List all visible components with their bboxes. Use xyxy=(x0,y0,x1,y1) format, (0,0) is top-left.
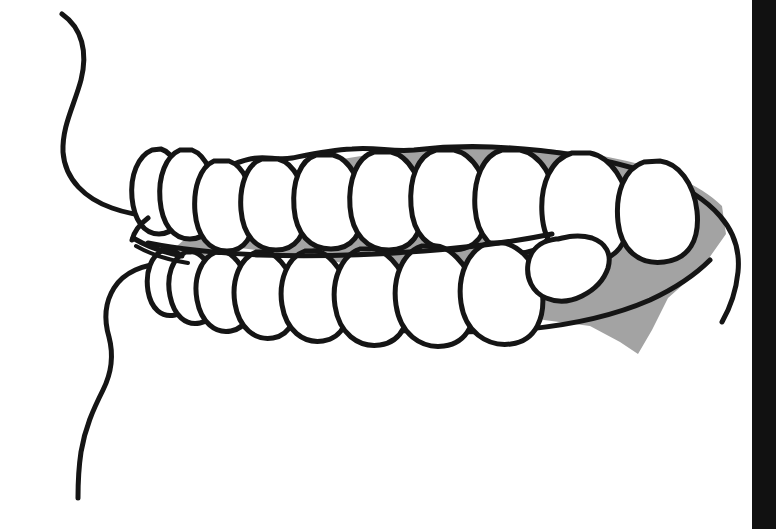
figure-canvas: Lateral view of dental arches in occlusi… xyxy=(0,0,776,529)
upper-terminal-molar xyxy=(617,161,697,262)
right-edge-dark-band xyxy=(752,0,776,529)
dental-lateral-illustration: Lateral view of dental arches in occlusi… xyxy=(0,0,776,529)
